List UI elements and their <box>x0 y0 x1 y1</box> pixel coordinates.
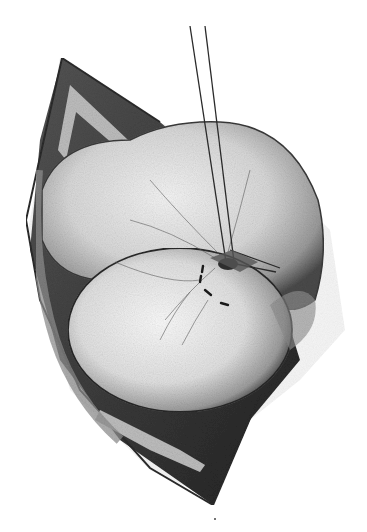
surgical-illustration <box>0 0 367 532</box>
stray-mark <box>214 518 216 520</box>
